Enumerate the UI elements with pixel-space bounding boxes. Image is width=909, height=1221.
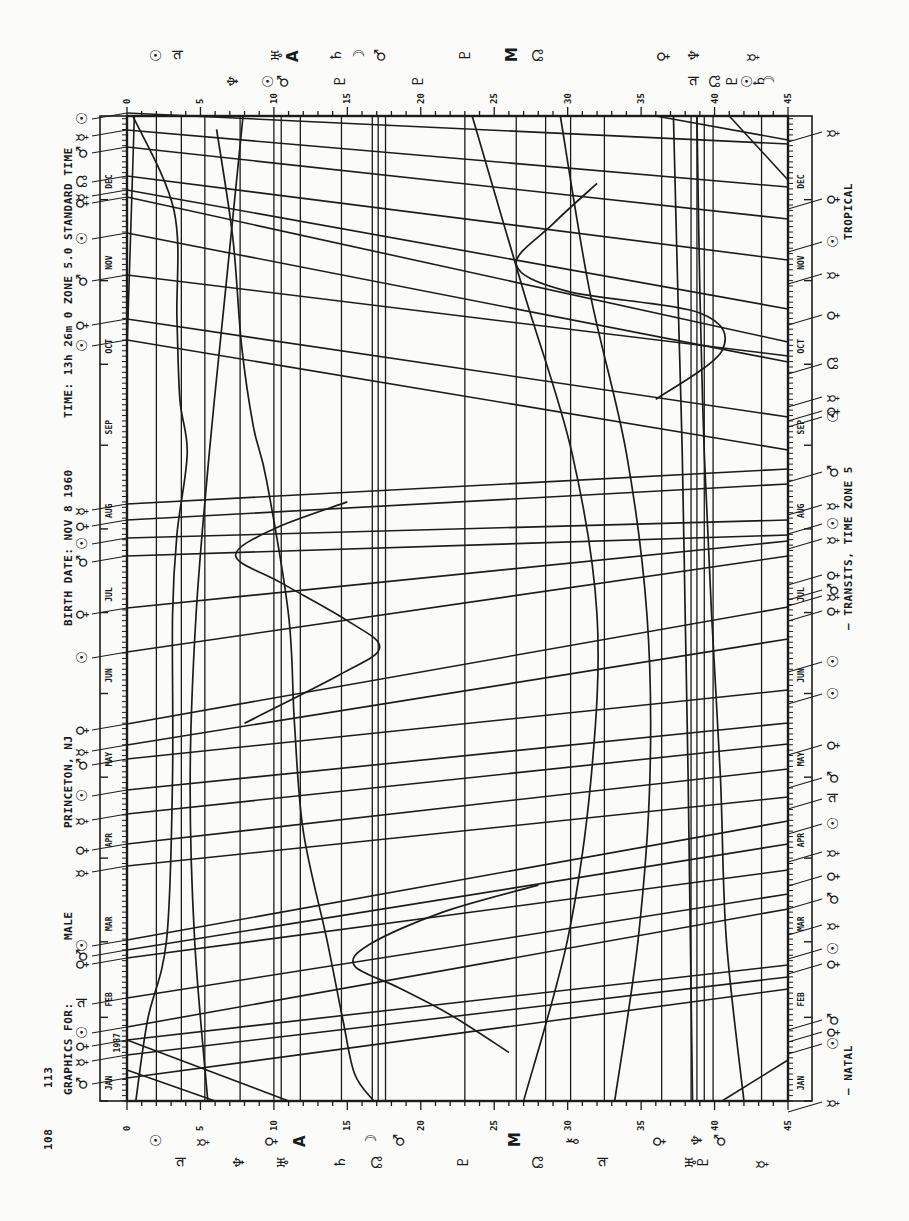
left-transit-glyph: ♀ xyxy=(73,320,91,331)
degree-label-bottom: 40 xyxy=(710,1120,720,1131)
fast-transit-line xyxy=(127,469,788,504)
right-leader xyxy=(788,472,822,482)
left-leader xyxy=(92,940,127,946)
right-leader xyxy=(788,242,822,252)
right-leader xyxy=(788,876,822,886)
figure-number: 113 xyxy=(42,1067,55,1088)
right-transit-glyph: ☿ xyxy=(824,536,842,545)
plot-frame xyxy=(100,116,812,1101)
month-label-right: JUL xyxy=(797,587,806,602)
left-transit-glyph: ♀ xyxy=(73,725,91,736)
degree-label-top: 0 xyxy=(122,99,132,104)
right-leader xyxy=(788,132,822,142)
bottom-natal-glyph: ♀ xyxy=(262,1136,280,1147)
month-label-right: MAY xyxy=(797,752,806,767)
left-transit-glyph: ☿ xyxy=(73,817,91,826)
bottom-natal-glyph: ♂ xyxy=(711,1134,729,1147)
fast-transit-wrap xyxy=(127,1070,215,1101)
top-transit-glyph: ♃ xyxy=(169,49,187,62)
top-transit-glyph: ♇ xyxy=(331,75,349,88)
left-leader xyxy=(92,538,127,544)
fast-transit-line xyxy=(127,556,788,652)
top-transit-glyph: ♂ xyxy=(274,75,292,88)
left-transit-glyph: ☉ xyxy=(73,939,91,952)
right-leader xyxy=(788,274,822,284)
month-label-right: NOV xyxy=(797,255,806,270)
left-leader xyxy=(92,866,127,872)
bottom-natal-glyph: ☿ xyxy=(194,1138,212,1147)
left-leader xyxy=(92,520,127,526)
month-label-right: APR xyxy=(797,833,806,848)
left-leader xyxy=(92,950,127,956)
right-transit-glyph: ♀ xyxy=(824,959,842,970)
month-label-left: MAY xyxy=(105,752,114,767)
left-transit-glyph: ♂ xyxy=(73,555,91,568)
top-transit-glyph: ☽ xyxy=(760,75,778,88)
month-label-left: SEP xyxy=(105,420,114,435)
slow-transit-curve xyxy=(673,116,692,1101)
month-label-left: FEB xyxy=(105,992,114,1007)
right-leader xyxy=(788,315,822,325)
left-leader xyxy=(92,275,127,281)
right-leader xyxy=(788,964,822,974)
fast-transit-line xyxy=(127,520,788,538)
right-leader xyxy=(788,1032,822,1042)
degree-label-top: 15 xyxy=(342,93,352,104)
right-transit-glyph: ♀ xyxy=(824,740,842,751)
left-transit-glyph: ♀ xyxy=(73,609,91,620)
right-leader xyxy=(788,852,822,862)
top-transit-glyph: ☿ xyxy=(744,53,762,62)
left-transit-glyph: ♀ xyxy=(73,521,91,532)
axis-ticks xyxy=(100,107,812,1110)
right-transit-glyph: ☉ xyxy=(824,235,842,248)
left-leader xyxy=(92,958,127,964)
top-transit-glyph: ☽ xyxy=(350,49,368,62)
fast-transit-line xyxy=(127,233,788,362)
right-transit-glyph: ☿ xyxy=(824,1099,842,1108)
bottom-natal-glyph: ☽ xyxy=(362,1134,380,1147)
left-transit-glyph: ☿ xyxy=(73,133,91,142)
fast-transit-line xyxy=(127,977,788,1055)
top-transit-glyph: M xyxy=(503,47,521,62)
left-leader xyxy=(92,147,127,153)
top-transit-glyph: ♃ xyxy=(685,75,703,88)
right-leader xyxy=(788,1102,822,1112)
top-transit-glyph: ☊ xyxy=(529,49,547,62)
bottom-natal-glyph: ☿ xyxy=(753,1160,771,1169)
bottom-natal-glyph: ♆ xyxy=(688,1134,706,1147)
right-transit-glyph: ☿ xyxy=(824,849,842,858)
right-leader xyxy=(788,199,822,209)
left-transit-glyph: ☿ xyxy=(73,869,91,878)
zodiac-type: TROPICAL xyxy=(842,183,855,240)
graphics-for-value: MALE xyxy=(62,912,75,941)
bottom-natal-glyph: ♆ xyxy=(230,1156,248,1169)
right-leader xyxy=(788,899,822,909)
left-transit-glyph: ☉ xyxy=(73,537,91,550)
degree-label-top: 35 xyxy=(636,93,646,104)
month-label-left: MAR xyxy=(105,916,114,931)
fast-transit-wrap xyxy=(722,1060,788,1101)
plot-border xyxy=(127,116,788,1101)
right-transit-glyph: ♀ xyxy=(824,871,842,882)
bottom-natal-glyph: ☊ xyxy=(529,1156,547,1169)
degree-label-top: 5 xyxy=(195,99,205,104)
right-transit-glyph: ☿ xyxy=(824,271,842,280)
left-leader xyxy=(92,745,127,751)
degree-label-top: 40 xyxy=(710,93,720,104)
left-transit-glyph: ☿ xyxy=(73,193,91,202)
location: PRINCETON, NJ xyxy=(62,735,75,828)
bottom-natal-glyph: ♇ xyxy=(454,1156,472,1169)
degree-label-top: 45 xyxy=(783,93,793,104)
degree-label-bottom: 20 xyxy=(416,1120,426,1131)
left-transit-glyph: ☿ xyxy=(73,507,91,516)
right-leader xyxy=(788,694,822,704)
fast-transit-lines xyxy=(127,113,788,1101)
top-transit-glyph: ♆ xyxy=(685,49,703,62)
left-transit-glyph: ♂ xyxy=(73,1077,91,1090)
right-leader xyxy=(788,575,822,585)
left-leader xyxy=(92,556,127,562)
left-transit-glyph: ♃ xyxy=(73,997,91,1010)
left-leader xyxy=(92,1027,127,1033)
right-transit-glyph: ☊ xyxy=(824,357,842,370)
transit-chart: 005510101515202025253030353540404545JANJ… xyxy=(0,0,909,1221)
